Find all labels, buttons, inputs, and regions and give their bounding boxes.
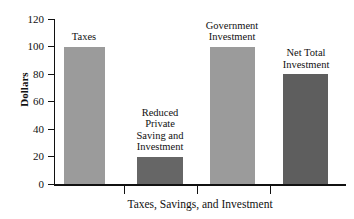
bar-label-government-investment: Government Investment [189, 20, 275, 43]
bar-net-total-investment[interactable] [283, 74, 328, 184]
x-tick-1 [124, 186, 125, 194]
plot-area: Taxes Reduced Private Saving and Investm… [54, 19, 342, 184]
y-axis-title: Dollars [19, 50, 30, 130]
y-tick-0 [48, 184, 55, 185]
bar-taxes[interactable] [64, 47, 105, 185]
y-tick-label-0: 0 [4, 179, 44, 190]
y-tick-label-120: 120 [4, 14, 44, 25]
y-tick-label-20: 20 [4, 151, 44, 162]
bar-chart: 0 20 40 60 80 100 120 Dollars Taxes, Sav… [0, 0, 354, 219]
x-axis-line [54, 184, 346, 186]
bar-label-taxes: Taxes [49, 31, 119, 43]
bar-reduced-private-saving[interactable] [137, 157, 183, 185]
x-axis-title: Taxes, Savings, and Investment [54, 198, 346, 210]
bar-government-investment[interactable] [210, 47, 255, 185]
bar-label-reduced-private-saving: Reduced Private Saving and Investment [123, 107, 197, 153]
x-tick-2 [197, 186, 198, 194]
x-tick-3 [270, 186, 271, 194]
bar-label-net-total-investment: Net Total Investment [269, 47, 343, 70]
